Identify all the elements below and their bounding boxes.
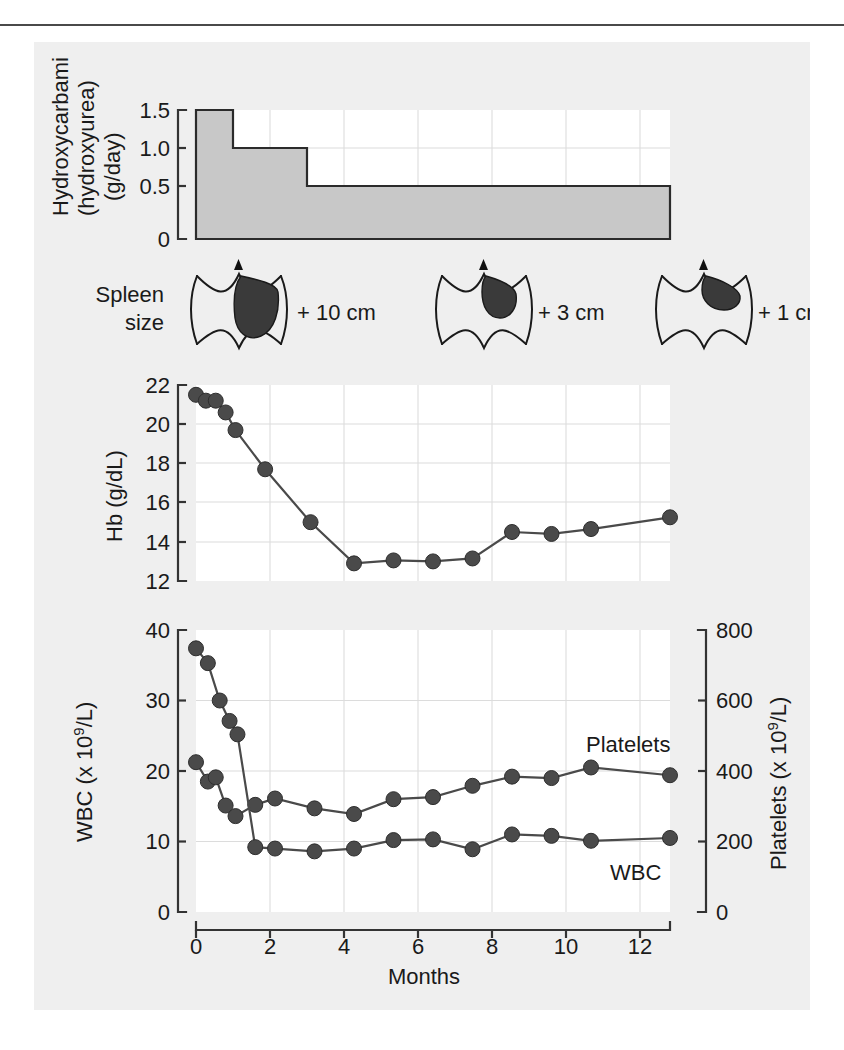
dose-y-axis-spine [178, 110, 186, 239]
figure-panel-container: Hydroxycarbamide (hydroxyurea) (g/day) [34, 42, 810, 1010]
counts-right-title-part1: Platelets (x 10 [766, 731, 791, 870]
counts-right-label-800: 800 [716, 618, 753, 643]
dose-y-label-0.5: 0.5 [139, 174, 170, 199]
svg-text:WBC (x 109/L): WBC (x 109/L) [70, 702, 97, 842]
x-label-12: 12 [628, 934, 652, 959]
spleen-icon-1: + 10 cm [191, 259, 376, 348]
counts-left-title-part1: WBC (x 10 [72, 736, 97, 842]
dose-y-label-1.0: 1.0 [139, 136, 170, 161]
hb-plot-background [196, 385, 670, 581]
hb-y-axis-spine [178, 385, 186, 581]
wbc-point [212, 693, 227, 708]
series-label-platelets: Platelets [586, 732, 670, 757]
platelets-point [189, 755, 204, 770]
platelets-point [208, 770, 223, 785]
wbc-point [248, 840, 263, 855]
hb-y-label-20: 20 [146, 412, 170, 437]
hb-y-label-22: 22 [146, 373, 170, 398]
spleen-organ-shape-2 [482, 276, 516, 318]
spleen-icon-3: + 1 cm [656, 259, 810, 348]
figure-page: Hydroxycarbamide (hydroxyurea) (g/day) [0, 0, 844, 1050]
platelets-point [663, 768, 678, 783]
wbc-point [307, 844, 322, 859]
spleen-lower-vee-3 [662, 330, 746, 348]
counts-panel: WBC (x 109/L) Platelets (x 109/L) [34, 612, 810, 942]
x-axis-labels: 0 2 4 6 8 10 12 Months [34, 932, 810, 1002]
spleen-size-value-3: + 1 cm [758, 300, 810, 325]
spleen-panel: Spleen size + 10 cm + 3 cm [34, 254, 810, 369]
top-divider-rule [0, 24, 844, 26]
dose-axis-title-line2: (hydroxyurea) [74, 80, 99, 216]
hb-point [426, 554, 441, 569]
wbc-point [426, 832, 441, 847]
counts-left-label-20: 20 [146, 759, 170, 784]
hb-y-label-16: 16 [146, 490, 170, 515]
hb-point [544, 526, 559, 541]
spleen-marker-arrow-2 [479, 259, 488, 270]
wbc-point [465, 842, 480, 857]
platelets-point [228, 809, 243, 824]
wbc-point [222, 713, 237, 728]
counts-right-label-400: 400 [716, 759, 753, 784]
platelets-point [426, 790, 441, 805]
wbc-point [386, 833, 401, 848]
wbc-point [505, 827, 520, 842]
wbc-point [544, 828, 559, 843]
x-label-0: 0 [190, 934, 202, 959]
hb-panel: Hb (g/dL) 22 20 18 16 [34, 367, 810, 597]
platelets-point [505, 769, 520, 784]
x-label-10: 10 [554, 934, 578, 959]
x-axis-title: Months [388, 964, 460, 989]
hb-point [228, 423, 243, 438]
counts-left-title-sup: 9 [70, 727, 87, 735]
x-axis-spine [196, 922, 670, 930]
spleen-marker-arrow-3 [699, 259, 708, 270]
counts-right-label-0: 0 [716, 900, 728, 925]
dose-panel: Hydroxycarbamide (hydroxyurea) (g/day) [34, 56, 810, 256]
wbc-point [268, 841, 283, 856]
hb-point [258, 462, 273, 477]
hb-y-label-14: 14 [146, 530, 170, 555]
dose-axis-title-line3: (g/day) [100, 133, 125, 201]
hb-y-label-18: 18 [146, 451, 170, 476]
spleen-label-line2: size [125, 310, 164, 335]
hb-point [218, 405, 233, 420]
hb-axis-title: Hb (g/dL) [102, 450, 127, 542]
platelets-point [544, 771, 559, 786]
counts-right-title-sup: 9 [764, 722, 781, 730]
svg-text:Platelets (x 109/L): Platelets (x 109/L) [764, 697, 791, 870]
spleen-lower-vee-1 [197, 330, 281, 348]
counts-right-label-600: 600 [716, 688, 753, 713]
counts-left-label-40: 40 [146, 618, 170, 643]
counts-left-axis-title: WBC (x 109/L) [70, 702, 97, 842]
spleen-marker-arrow-1 [234, 259, 243, 270]
hb-point [303, 515, 318, 530]
hb-point [386, 553, 401, 568]
hb-y-label-12: 12 [146, 569, 170, 594]
counts-left-title-part3: /L) [72, 702, 97, 728]
wbc-point [584, 833, 599, 848]
x-label-8: 8 [486, 934, 498, 959]
hb-point [465, 551, 480, 566]
x-label-4: 4 [338, 934, 350, 959]
counts-right-axis-title: Platelets (x 109/L) [764, 697, 791, 870]
platelets-point [268, 791, 283, 806]
wbc-point [200, 656, 215, 671]
hb-point [584, 522, 599, 537]
wbc-point [189, 641, 204, 656]
platelets-point [307, 801, 322, 816]
hb-point [663, 510, 678, 525]
wbc-point [347, 841, 362, 856]
x-label-6: 6 [412, 934, 424, 959]
spleen-icon-2: + 3 cm [436, 259, 605, 348]
x-label-2: 2 [264, 934, 276, 959]
spleen-lower-vee-2 [442, 330, 526, 348]
wbc-point [663, 830, 678, 845]
hb-point [505, 525, 520, 540]
spleen-organ-shape-3 [702, 276, 740, 310]
wbc-point [230, 727, 245, 742]
counts-left-label-30: 30 [146, 688, 170, 713]
counts-left-label-0: 0 [158, 900, 170, 925]
spleen-size-value-2: + 3 cm [538, 300, 605, 325]
platelets-point [465, 778, 480, 793]
